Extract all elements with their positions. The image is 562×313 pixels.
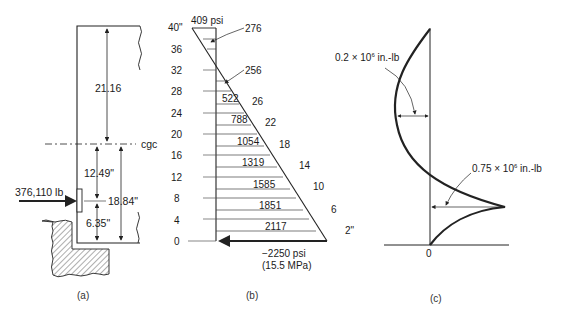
segment-276: 276 (245, 24, 262, 34)
segment-1054: 1054 (237, 137, 259, 147)
tick-36: 36 (171, 45, 182, 55)
tick-4: 4 (174, 216, 180, 226)
dim-mid-upper-label: 12.49" (84, 168, 114, 179)
segment-1319: 1319 (242, 158, 264, 168)
segment-522: 522 (222, 94, 239, 104)
bearing-plate (77, 189, 82, 212)
tick-32: 32 (171, 66, 182, 76)
caption-b: (b) (246, 291, 258, 301)
top-stress-label: 409 psi (191, 16, 223, 26)
segment-256: 256 (245, 66, 262, 76)
tick-28: 28 (171, 87, 182, 97)
depth-18: 18 (279, 140, 290, 150)
depth-22: 22 (265, 118, 276, 128)
depth-26: 26 (252, 97, 263, 107)
segment-1585: 1585 (253, 180, 275, 190)
lower-moment-label: 0.75 × 106 in.-lb (472, 164, 542, 174)
tick-40: 40" (168, 23, 183, 33)
axis-ticks (188, 70, 216, 241)
depth-14: 14 (299, 161, 310, 171)
panel-b (188, 28, 327, 241)
wall-outline (77, 26, 140, 243)
dim-total-label: 18.84" (108, 196, 138, 207)
caption-a: (a) (77, 291, 89, 301)
break-line-top (139, 26, 142, 70)
panel-a (19, 26, 142, 277)
tick-12: 12 (171, 173, 182, 183)
tick-20: 20 (171, 130, 182, 140)
segment-788: 788 (231, 115, 248, 125)
bottom-stress-label: −2250 psi (262, 249, 306, 259)
upper-moment-label: 0.2 × 106 in.-lb (335, 53, 399, 63)
origin-label: 0 (426, 249, 432, 259)
caption-c: (c) (430, 294, 442, 304)
panel-c (384, 28, 509, 245)
moment-curve (395, 29, 505, 245)
depth-6: 6 (331, 205, 337, 215)
tick-8: 8 (174, 194, 180, 204)
tick-24: 24 (171, 109, 182, 119)
segment-2117: 2117 (265, 222, 287, 232)
load-label: 376,110 lb (15, 187, 63, 198)
cgc-label: cgc (141, 139, 157, 150)
tick-16: 16 (171, 151, 182, 161)
bottom-stress-metric: (15.5 MPa) (262, 261, 311, 271)
segment-1851: 1851 (259, 201, 281, 211)
break-line-bottom (137, 212, 140, 243)
dim-top-label: 21.16 (95, 83, 121, 94)
tick-0: 0 (174, 237, 180, 247)
depth-2: 2" (345, 226, 354, 236)
depth-10: 10 (313, 182, 324, 192)
dim-lower-label: 6.35" (86, 218, 110, 229)
